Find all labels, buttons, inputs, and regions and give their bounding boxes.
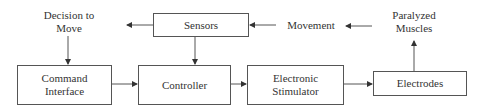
electrodes-box: Electrodes (373, 71, 467, 96)
command-interface-box: Command Interface (17, 65, 112, 105)
paralyzed-muscles-label: Paralyzed Muscles (376, 9, 452, 35)
movement-label: Movement (276, 19, 346, 32)
sensors-box: Sensors (153, 13, 249, 37)
decision-to-move-label: Decision to Move (33, 9, 105, 35)
electronic-stimulator-box: Electronic Stimulator (247, 65, 344, 105)
controller-box: Controller (138, 65, 231, 105)
